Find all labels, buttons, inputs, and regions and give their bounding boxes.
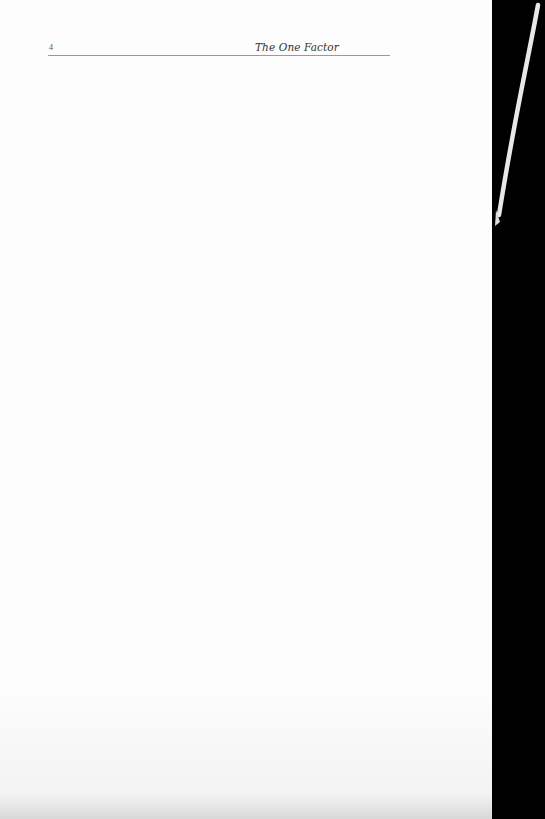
- book-page: 4 The One Factor: [0, 0, 492, 819]
- running-header-title: The One Factor: [255, 41, 339, 53]
- scan-background: [492, 0, 545, 819]
- page-number: 4: [49, 43, 53, 52]
- header-rule: [48, 55, 390, 56]
